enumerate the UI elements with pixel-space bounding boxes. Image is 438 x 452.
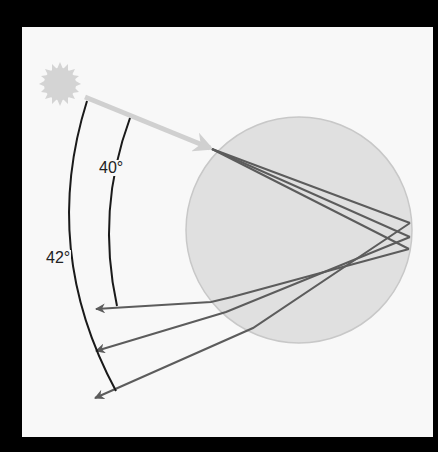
rainbow-diagram: 40° 42°	[0, 0, 438, 452]
inner-angle-label: 40°	[98, 160, 124, 176]
diagram-canvas	[0, 0, 438, 452]
outer-angle-label: 42°	[45, 250, 71, 266]
